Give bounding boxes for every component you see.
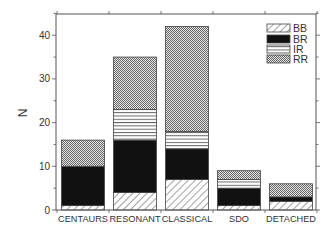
bar-segment-br	[62, 166, 105, 205]
bar-segment-bb	[166, 179, 209, 210]
bar-segment-rr	[270, 184, 313, 197]
legend: BBBRIRRR	[267, 22, 309, 65]
legend-swatch	[267, 24, 290, 32]
x-tick-label: DETACHED	[266, 214, 316, 224]
y-tick-label: 10	[39, 161, 51, 172]
legend-swatch	[267, 55, 290, 63]
bar-centaurs	[62, 140, 105, 210]
bar-segment-br	[270, 197, 313, 201]
x-tick-label: SDO	[229, 214, 249, 224]
legend-swatch	[267, 45, 290, 53]
legend-swatch	[267, 35, 290, 43]
bar-segment-ir	[218, 179, 261, 188]
bar-segment-rr	[62, 140, 105, 166]
bar-segment-br	[218, 188, 261, 205]
y-tick-label: 20	[39, 117, 51, 128]
bar-segment-br	[114, 140, 157, 192]
x-tick-label: RESONANT	[109, 214, 160, 224]
plot-area	[62, 26, 313, 210]
bar-sdo	[218, 171, 261, 210]
bar-detached	[270, 184, 313, 210]
stacked-bar-chart: 010203040CENTAURSRESONANTCLASSICALSDODET…	[0, 0, 332, 232]
bar-segment-bb	[62, 206, 105, 210]
x-tick-label: CLASSICAL	[162, 214, 213, 224]
x-tick-label: CENTAURS	[58, 214, 108, 224]
y-tick-label: 0	[44, 205, 50, 216]
bar-segment-bb	[114, 193, 157, 210]
bar-segment-br	[166, 149, 209, 180]
legend-item-rr: RR	[267, 53, 309, 65]
bar-resonant	[114, 57, 157, 210]
bar-segment-bb	[270, 201, 313, 210]
bar-segment-rr	[218, 171, 261, 180]
bar-segment-ir	[166, 131, 209, 148]
y-axis-label: N	[16, 109, 30, 118]
y-tick-label: 40	[39, 30, 51, 41]
bar-segment-rr	[114, 57, 157, 109]
bar-segment-bb	[218, 206, 261, 210]
y-tick-label: 30	[39, 73, 51, 84]
legend-label: RR	[293, 53, 309, 65]
bar-segment-rr	[166, 26, 209, 131]
bar-segment-ir	[114, 109, 157, 140]
bar-classical	[166, 26, 209, 210]
